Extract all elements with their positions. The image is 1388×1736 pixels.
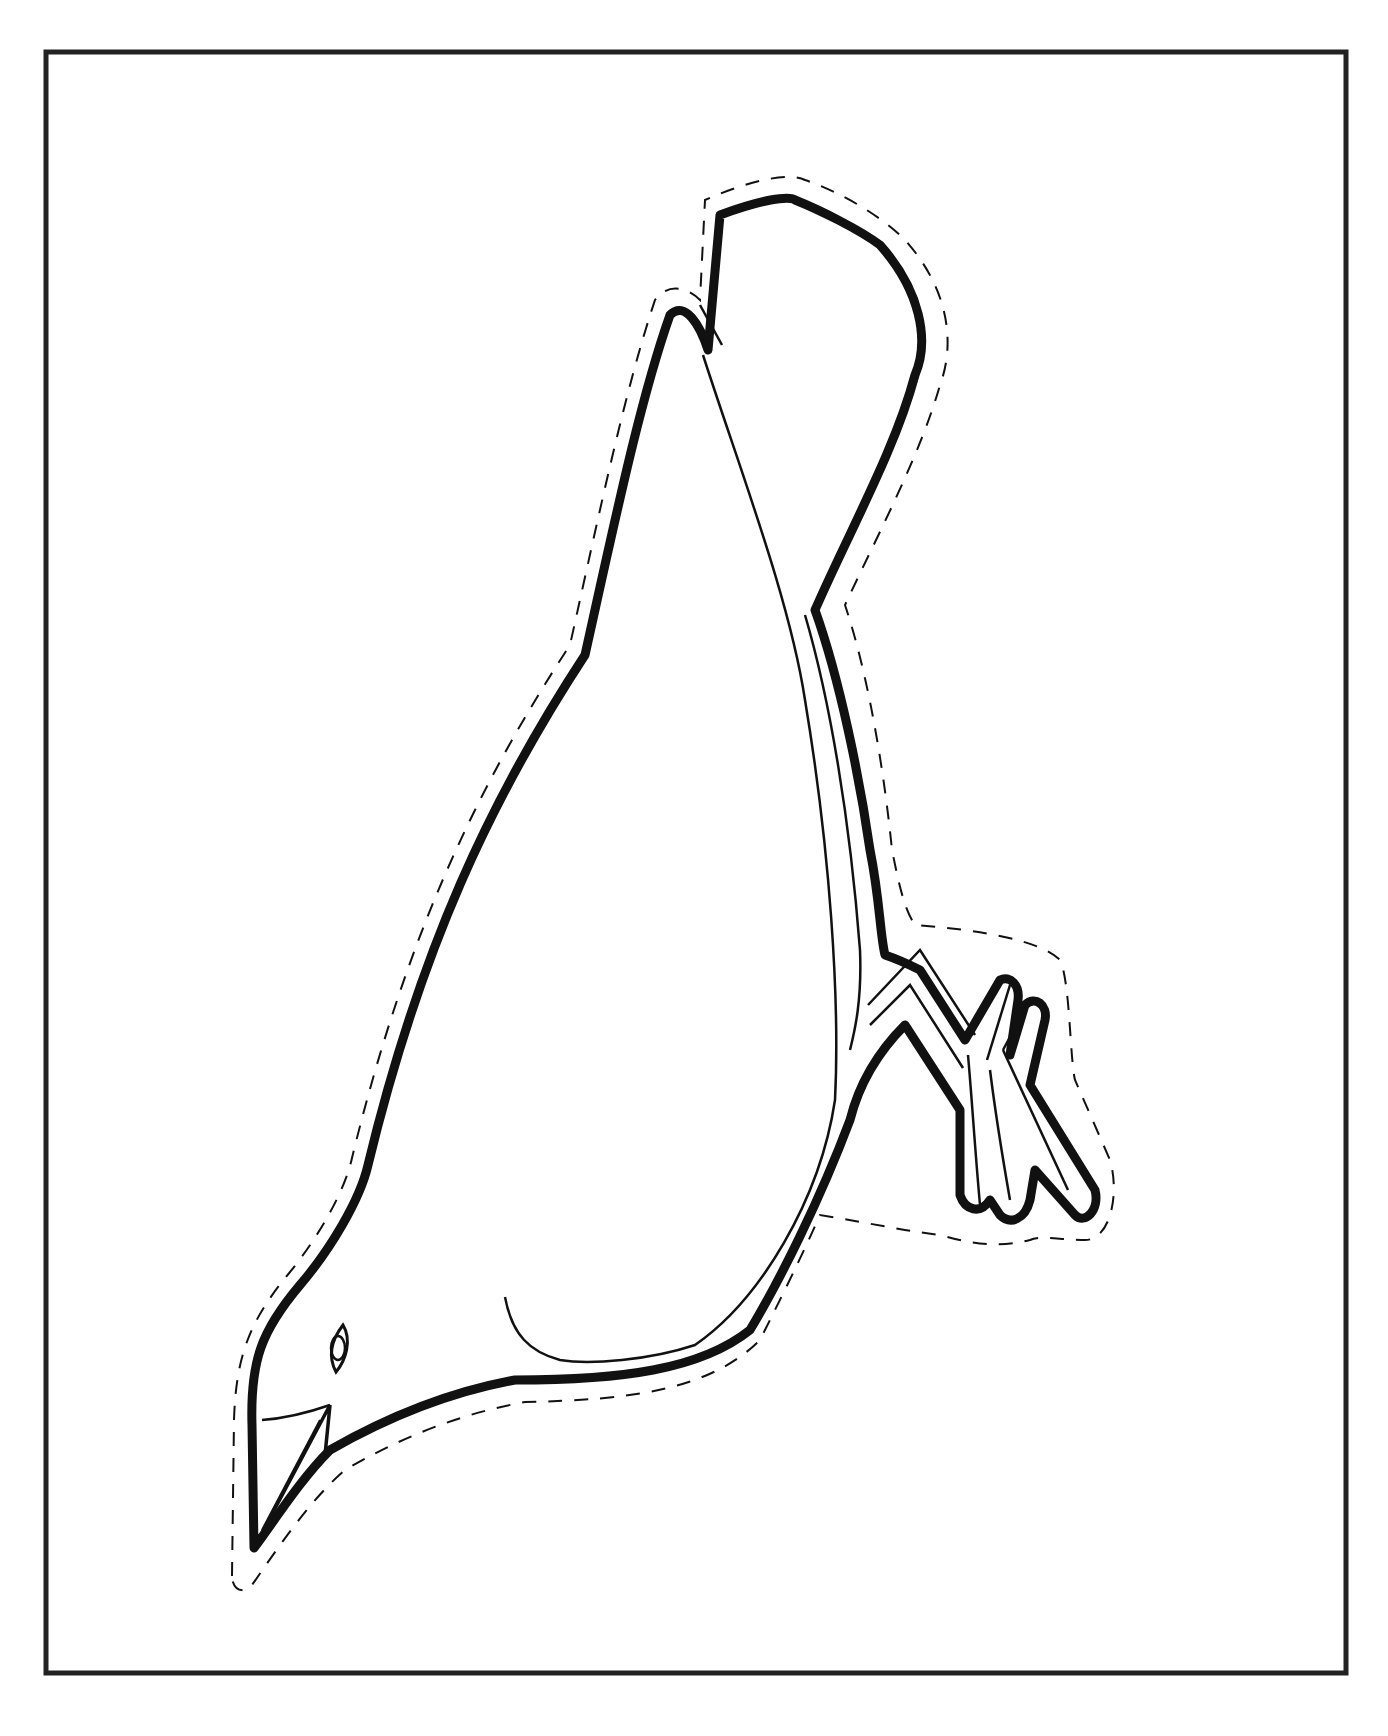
bird-outline — [252, 198, 1096, 1548]
coloring-page — [0, 0, 1388, 1736]
bird-cutout-drawing — [0, 0, 1388, 1736]
